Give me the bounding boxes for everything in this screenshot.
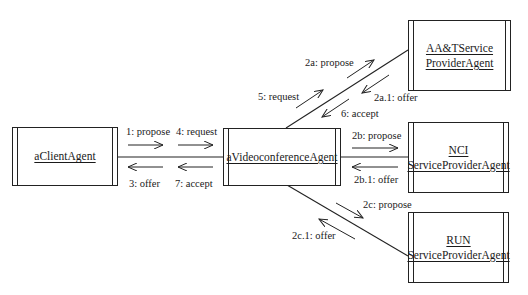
object-aat-service-provider-agent[interactable]: AA&TService ProviderAgent [408, 20, 511, 91]
link-video-run [287, 185, 408, 256]
object-label-line-2: ProviderAgent [426, 56, 494, 71]
object-label-line-2: ServiceProviderAgent [407, 248, 509, 263]
message-4-request: 4: request [176, 126, 217, 138]
arrow-5-request [296, 90, 323, 108]
object-label-line-2: ServiceProviderAgent [407, 158, 509, 173]
object-videoconference-agent[interactable]: aVideoconferenceAgent [223, 128, 341, 186]
message-2c1-offer: 2c.1: offer [292, 230, 336, 242]
object-label-line-1: NCI [449, 143, 469, 158]
object-label-line-1: AA&TService [426, 41, 493, 56]
message-2c-propose: 2c: propose [363, 199, 412, 211]
object-nci-service-provider-agent[interactable]: NCI ServiceProviderAgent [408, 122, 509, 193]
message-2b1-offer: 2b.1: offer [354, 174, 398, 186]
message-2b-propose: 2b: propose [352, 130, 401, 142]
message-3-offer: 3: offer [129, 178, 160, 190]
message-7-accept: 7: accept [175, 178, 213, 190]
message-2a1-offer: 2a.1: offer [374, 92, 418, 104]
message-2a-propose: 2a: propose [305, 57, 354, 69]
object-client-agent[interactable]: aClientAgent [12, 127, 118, 186]
object-label: aClientAgent [34, 149, 95, 164]
arrow-2a1-offer [362, 75, 389, 93]
object-label-line-1: RUN [446, 233, 470, 248]
message-5-request: 5: request [258, 91, 299, 103]
object-label: aVideoconferenceAgent [226, 150, 337, 165]
object-run-service-provider-agent[interactable]: RUN ServiceProviderAgent [408, 212, 509, 283]
message-6-accept: 6: accept [341, 108, 379, 120]
message-1-propose: 1: propose [126, 126, 170, 138]
